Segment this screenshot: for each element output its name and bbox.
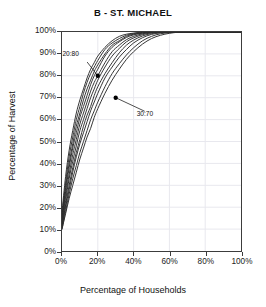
x-tick-mark <box>242 252 243 256</box>
x-tick-mark <box>97 252 98 256</box>
x-tick-label: 40% <box>113 258 153 266</box>
y-tick-mark <box>57 53 61 54</box>
y-tick-mark <box>57 208 61 209</box>
x-axis-ticks: 0%20%40%60%80%100% <box>0 0 266 307</box>
y-tick-mark <box>57 186 61 187</box>
y-axis-label: Percentage of Harvest <box>7 61 17 211</box>
x-tick-mark <box>170 252 171 256</box>
annotation-label: 20:80 <box>62 51 79 58</box>
y-tick-mark <box>57 164 61 165</box>
y-tick-mark <box>57 97 61 98</box>
x-tick-label: 100% <box>222 258 262 266</box>
x-tick-label: 0% <box>41 258 81 266</box>
y-tick-mark <box>57 119 61 120</box>
annotation-label: 30:70 <box>137 111 154 118</box>
y-tick-mark <box>57 142 61 143</box>
x-tick-mark <box>206 252 207 256</box>
x-tick-label: 80% <box>186 258 226 266</box>
y-tick-mark <box>57 75 61 76</box>
x-tick-label: 20% <box>77 258 117 266</box>
x-tick-mark <box>61 252 62 256</box>
y-tick-mark <box>57 230 61 231</box>
x-axis-label: Percentage of Households <box>0 285 266 295</box>
y-tick-mark <box>57 31 61 32</box>
chart-container: B - ST. MICHAEL 0%10%20%30%40%50%60%70%8… <box>0 0 266 307</box>
x-tick-mark <box>133 252 134 256</box>
x-tick-label: 60% <box>150 258 190 266</box>
